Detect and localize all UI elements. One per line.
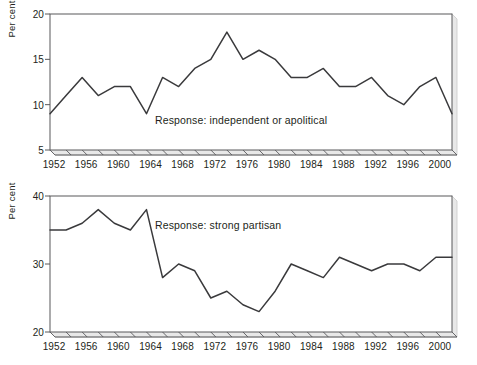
x-tick-label: 1992 — [364, 159, 387, 170]
x-tick-label: 1992 — [364, 341, 387, 352]
x-tick-label: 2000 — [429, 159, 452, 170]
x-tick-label: 1996 — [396, 159, 419, 170]
x-tick-label: 1984 — [300, 159, 323, 170]
annotation-top: Response: independent or apolitical — [155, 114, 327, 126]
x-tick-label: 1952 — [43, 341, 66, 352]
x-tick-label: 1976 — [236, 341, 259, 352]
x-tick-label: 1952 — [43, 159, 66, 170]
x-tick-label: 1980 — [268, 341, 291, 352]
chart-panel-independent: Per cent 5101520 19521956196019641968197… — [0, 2, 477, 182]
x-tick-label: 1964 — [139, 341, 162, 352]
x-tick-label: 1988 — [332, 159, 355, 170]
x-tick-label: 1956 — [75, 341, 98, 352]
x-tick-label: 1960 — [107, 341, 130, 352]
x-tick-label: 1984 — [300, 341, 323, 352]
x-tick-label: 1972 — [203, 341, 226, 352]
x-tick-label: 1964 — [139, 159, 162, 170]
x-axis-labels-top: 1952195619601964196819721976198019841988… — [0, 2, 477, 182]
x-tick-label: 1976 — [236, 159, 259, 170]
x-tick-label: 1968 — [171, 341, 194, 352]
x-tick-label: 1972 — [203, 159, 226, 170]
x-tick-label: 2000 — [429, 341, 452, 352]
annotation-bottom: Response: strong partisan — [155, 219, 281, 231]
x-tick-label: 1956 — [75, 159, 98, 170]
x-tick-label: 1960 — [107, 159, 130, 170]
x-tick-label: 1988 — [332, 341, 355, 352]
x-tick-label: 1996 — [396, 341, 419, 352]
figure-two-line-charts: Per cent 5101520 19521956196019641968197… — [0, 0, 477, 365]
chart-panel-strong-partisan: Per cent 203040 195219561960196419681972… — [0, 184, 477, 364]
x-axis-labels-bottom: 1952195619601964196819721976198019841988… — [0, 184, 477, 364]
x-tick-label: 1968 — [171, 159, 194, 170]
x-tick-label: 1980 — [268, 159, 291, 170]
